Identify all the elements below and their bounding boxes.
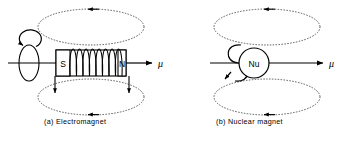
field-line-lower-b <box>214 79 320 115</box>
moment-label-a: μ <box>157 58 163 69</box>
field-line-lower-a <box>38 79 144 115</box>
physics-figure: S N μ Nu μ (a) Electromagnet (b) Nuclear… <box>0 0 355 141</box>
caption-electromagnet: (a) Electromagnet <box>44 117 106 126</box>
field-line-upper-a <box>38 9 144 45</box>
rotation-arrow-a <box>19 30 41 47</box>
panel-nuclear-magnet: Nu μ <box>210 9 334 115</box>
north-pole-label: N <box>119 59 125 69</box>
spin-arrow-b <box>225 72 231 79</box>
panel-electromagnet: S N μ <box>8 9 163 115</box>
caption-nuclear-magnet: (b) Nuclear magnet <box>216 117 283 126</box>
moment-label-b: μ <box>328 58 334 69</box>
nucleus-label: Nu <box>249 59 260 69</box>
field-line-upper-b <box>214 9 320 45</box>
south-pole-label: S <box>60 59 66 69</box>
